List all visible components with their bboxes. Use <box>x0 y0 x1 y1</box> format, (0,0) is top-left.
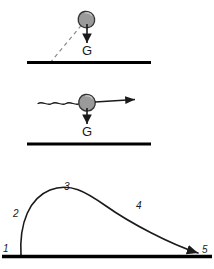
panel-launch-group: G <box>27 11 151 63</box>
panel-trajectory-group: 1 2 3 4 5 <box>2 181 212 257</box>
trajectory-arc-icon <box>21 187 198 256</box>
trajectory-point-label-5: 5 <box>202 244 208 255</box>
launch-trajectory-dashed-icon <box>50 22 84 63</box>
gravity-label-top: G <box>82 43 92 58</box>
trajectory-point-label-3: 3 <box>64 181 70 192</box>
velocity-vector-arrow-icon <box>95 100 135 103</box>
physics-diagram-figure: G G 1 2 3 4 5 <box>0 0 214 269</box>
trajectory-point-label-2: 2 <box>12 208 19 219</box>
trajectory-point-label-4: 4 <box>136 200 142 211</box>
panel-horizontal-group: G <box>27 94 151 144</box>
gravity-label-mid: G <box>82 124 92 139</box>
diagram-canvas: G G 1 2 3 4 5 <box>0 0 214 269</box>
trajectory-point-label-1: 1 <box>3 243 9 254</box>
